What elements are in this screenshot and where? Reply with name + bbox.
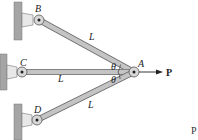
stray-text-p: P [191,125,197,136]
label-b: B [35,3,41,14]
wall-b [14,2,33,40]
load-arrow [139,70,163,75]
wall-c [0,54,17,90]
wall-d [14,104,32,140]
pin-c [17,67,27,77]
bar-ad [37,72,134,120]
pin-b [34,15,44,25]
label-c: C [20,57,27,68]
label-load-p: P [166,67,172,78]
label-l-ab: L [88,31,95,42]
label-a: A [137,58,145,69]
pin-d [32,115,42,125]
label-l-ac: L [57,73,64,84]
bar-ab [39,20,134,72]
truss-diagram: B C D A L L L θ θ P P [0,0,198,140]
label-theta-upper: θ [111,61,116,72]
label-d: D [33,104,42,115]
label-l-ad: L [87,99,94,110]
label-theta-lower: θ [111,74,116,85]
